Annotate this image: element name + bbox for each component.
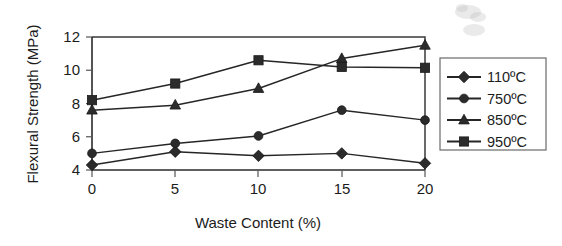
data-point-circle [171, 139, 180, 148]
series-line [92, 45, 425, 110]
data-point-diamond [253, 150, 265, 162]
y-tick-label: 8 [72, 95, 80, 112]
flexural-strength-line-chart: 12 10 8 6 4 0 5 10 15 20 Flexural Streng… [0, 0, 562, 246]
x-axis-title: Waste Content (%) [195, 214, 321, 231]
legend-label: 850ºC [487, 112, 527, 128]
data-point-diamond [336, 148, 348, 160]
data-point-square [337, 62, 346, 71]
data-point-square [87, 96, 96, 105]
y-tick-label: 10 [63, 61, 80, 78]
data-point-triangle [420, 40, 431, 50]
data-point-diamond [86, 159, 98, 171]
x-tick-label: 15 [334, 180, 351, 197]
series-triangle [87, 40, 431, 114]
legend-label: 110ºC [487, 69, 526, 85]
data-point-circle [421, 116, 430, 125]
x-tick-labels: 0 5 10 15 20 [88, 180, 434, 197]
scan-artifact [455, 4, 486, 36]
legend-marker-circle [460, 94, 469, 103]
x-axis [92, 170, 425, 177]
data-point-circle [88, 149, 97, 158]
y-axis-title: Flexural Strength (MPa) [24, 24, 41, 183]
series-diamond [86, 146, 431, 171]
series-line [92, 60, 425, 100]
legend-label: 950ºC [487, 134, 527, 150]
series-square [87, 56, 429, 105]
legend: 110ºC750ºC850ºC950ºC [440, 58, 546, 150]
y-tick-label: 4 [72, 161, 80, 178]
x-tick-label: 0 [88, 180, 96, 197]
data-series-layer [86, 40, 431, 171]
x-tick-label: 20 [417, 180, 434, 197]
data-point-square [254, 56, 263, 65]
data-point-circle [337, 106, 346, 115]
y-tick-label: 6 [72, 128, 80, 145]
legend-marker-square [459, 137, 468, 146]
legend-label: 750ºC [487, 91, 527, 107]
chart-figure: 12 10 8 6 4 0 5 10 15 20 Flexural Streng… [0, 0, 562, 246]
x-tick-label: 5 [171, 180, 179, 197]
data-point-diamond [419, 158, 431, 170]
data-point-square [420, 63, 429, 72]
y-tick-labels: 12 10 8 6 4 [63, 28, 80, 178]
data-point-circle [254, 132, 263, 141]
data-point-square [171, 79, 180, 88]
x-tick-label: 10 [250, 180, 267, 197]
y-tick-label: 12 [63, 28, 80, 45]
